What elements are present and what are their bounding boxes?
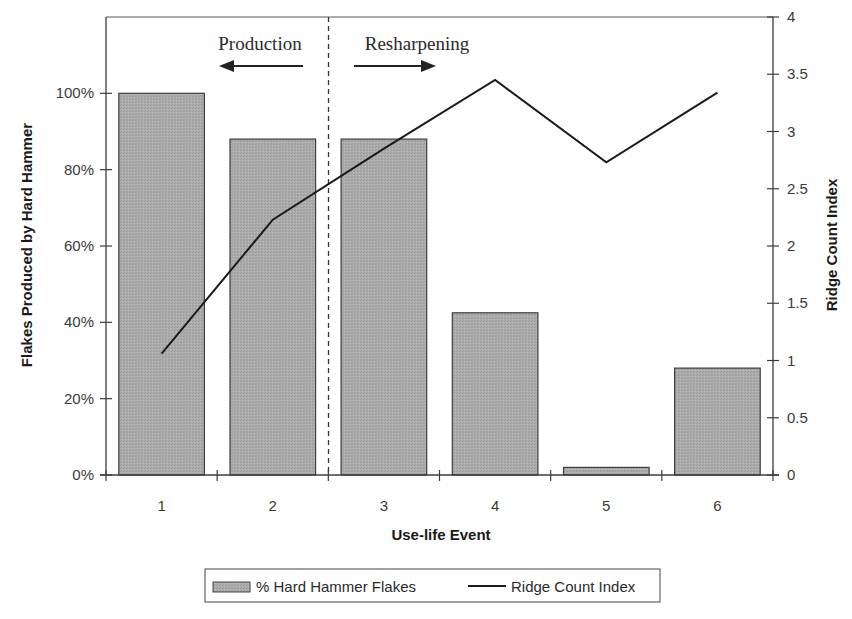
bar-3 — [341, 139, 427, 475]
legend-bar-swatch-icon — [213, 582, 250, 592]
right-tick-label: 3 — [787, 123, 795, 140]
bar-series — [119, 93, 760, 475]
left-tick-label: 60% — [64, 237, 94, 254]
legend-bar-label: % Hard Hammer Flakes — [256, 578, 416, 595]
left-axis-ticks: 0%20%40%60%80%100% — [56, 84, 112, 483]
right-tick-label: 1.5 — [787, 294, 808, 311]
bar-1 — [119, 93, 205, 475]
arrow-left-icon — [219, 60, 303, 72]
x-tick-label: 1 — [157, 497, 165, 514]
x-tick-label: 3 — [380, 497, 388, 514]
bar-5 — [564, 467, 650, 475]
left-tick-label: 20% — [64, 390, 94, 407]
x-axis-ticks: 123456 — [106, 470, 773, 514]
left-tick-label: 40% — [64, 313, 94, 330]
legend-line-label: Ridge Count Index — [511, 578, 636, 595]
right-tick-label: 4 — [787, 8, 795, 25]
right-tick-label: 1 — [787, 352, 795, 369]
legend: % Hard Hammer Flakes Ridge Count Index — [205, 569, 660, 602]
right-tick-label: 0 — [787, 466, 795, 483]
bar-4 — [452, 313, 538, 475]
x-tick-label: 4 — [491, 497, 499, 514]
right-axis-title: Ridge Count Index — [823, 178, 840, 311]
right-tick-label: 2 — [787, 237, 795, 254]
arrow-right-icon — [354, 60, 436, 72]
bar-6 — [675, 368, 761, 475]
right-tick-label: 0.5 — [787, 409, 808, 426]
x-tick-label: 6 — [713, 497, 721, 514]
left-tick-label: 100% — [56, 84, 94, 101]
bar-2 — [230, 139, 316, 475]
chart: 0%20%40%60%80%100% 00.511.522.533.54 123… — [0, 0, 852, 619]
x-axis-title: Use-life Event — [391, 526, 490, 543]
x-tick-label: 5 — [602, 497, 610, 514]
resharpening-label: Resharpening — [365, 33, 470, 54]
left-tick-label: 0% — [72, 466, 94, 483]
x-tick-label: 2 — [269, 497, 277, 514]
left-tick-label: 80% — [64, 161, 94, 178]
right-tick-label: 3.5 — [787, 65, 808, 82]
production-label: Production — [218, 33, 302, 54]
right-tick-label: 2.5 — [787, 180, 808, 197]
left-axis-title: Flakes Produced by Hard Hammer — [18, 123, 35, 367]
